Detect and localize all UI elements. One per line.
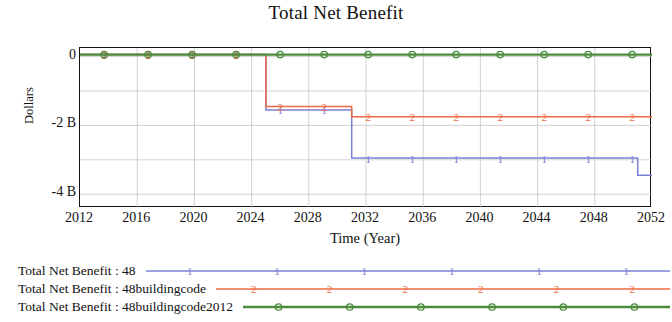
x-tick-label: 2012 <box>65 210 93 226</box>
plot-svg: 11111111111112222222222222 <box>80 48 652 208</box>
svg-text:1: 1 <box>274 265 280 277</box>
x-tick-label: 2028 <box>294 210 322 226</box>
svg-text:2: 2 <box>629 283 635 295</box>
svg-text:2: 2 <box>327 283 333 295</box>
svg-text:1: 1 <box>448 265 454 277</box>
legend-item-label: Total Net Benefit : 48buildingcode2012 <box>18 299 241 315</box>
svg-text:2: 2 <box>251 283 257 295</box>
x-tick-label: 2020 <box>179 210 207 226</box>
x-tick-label: 2032 <box>351 210 379 226</box>
x-tick-label: 2040 <box>465 210 493 226</box>
chart-legend: Total Net Benefit : 48111111Total Net Be… <box>18 262 672 316</box>
svg-text:1: 1 <box>361 265 367 277</box>
x-tick-label: 2024 <box>237 210 265 226</box>
svg-text:2: 2 <box>554 283 560 295</box>
svg-text:1: 1 <box>585 153 591 165</box>
x-tick-label: 2052 <box>637 210 665 226</box>
svg-text:1: 1 <box>409 153 415 165</box>
plot-area: 11111111111112222222222222 <box>79 47 651 207</box>
svg-text:2: 2 <box>402 283 408 295</box>
svg-text:1: 1 <box>623 265 629 277</box>
legend-swatch: 222222 <box>214 281 672 297</box>
x-tick-label: 2036 <box>408 210 436 226</box>
svg-text:2: 2 <box>478 283 484 295</box>
svg-text:2: 2 <box>277 101 283 113</box>
svg-text:1: 1 <box>536 265 542 277</box>
svg-text:1: 1 <box>629 153 635 165</box>
svg-text:2: 2 <box>321 101 327 113</box>
legend-item[interactable]: Total Net Benefit : 48111111 <box>18 262 672 280</box>
x-tick-label: 2016 <box>122 210 150 226</box>
legend-item[interactable]: Total Net Benefit : 48buildingcode2012 <box>18 298 672 316</box>
svg-text:1: 1 <box>453 153 459 165</box>
svg-text:2: 2 <box>453 111 459 123</box>
svg-text:2: 2 <box>541 111 547 123</box>
y-tick-label: -2 B <box>32 115 76 131</box>
svg-text:1: 1 <box>186 265 192 277</box>
x-tick-label: 2048 <box>580 210 608 226</box>
legend-item-label: Total Net Benefit : 48 <box>18 263 144 279</box>
chart-container: Total Net Benefit Dollars 0-2 B-4 B 1111… <box>0 0 672 322</box>
legend-item[interactable]: Total Net Benefit : 48buildingcode222222 <box>18 280 672 298</box>
legend-swatch: 111111 <box>144 263 672 279</box>
svg-text:1: 1 <box>541 153 547 165</box>
svg-text:2: 2 <box>629 111 635 123</box>
y-tick-label: -4 B <box>32 184 76 200</box>
svg-text:2: 2 <box>365 111 371 123</box>
svg-text:1: 1 <box>497 153 503 165</box>
svg-text:2: 2 <box>585 111 591 123</box>
legend-item-label: Total Net Benefit : 48buildingcode <box>18 281 214 297</box>
x-axis-tick-labels: 2012201620202024202820322036204020442048… <box>0 210 672 232</box>
svg-text:2: 2 <box>409 111 415 123</box>
svg-text:2: 2 <box>497 111 503 123</box>
chart-title: Total Net Benefit <box>0 2 672 24</box>
y-tick-label: 0 <box>32 47 76 63</box>
svg-text:1: 1 <box>365 153 371 165</box>
x-axis-title: Time (Year) <box>79 230 651 247</box>
x-tick-label: 2044 <box>523 210 551 226</box>
legend-swatch <box>241 299 672 315</box>
